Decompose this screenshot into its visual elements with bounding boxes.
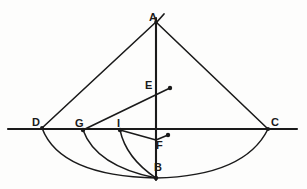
point-label-c: C xyxy=(271,117,279,128)
dot-point-b xyxy=(154,176,158,180)
point-label-g: G xyxy=(75,118,84,129)
point-label-f: F xyxy=(156,140,163,151)
dot-point-d xyxy=(40,126,44,130)
arc-i-b xyxy=(120,130,156,178)
side-ad-line xyxy=(42,22,156,128)
dot-point-f xyxy=(166,133,170,137)
point-label-b: B xyxy=(154,162,162,173)
point-label-d: D xyxy=(32,117,40,128)
dot-point-c xyxy=(266,127,270,131)
point-label-a: A xyxy=(149,12,157,23)
point-label-e: E xyxy=(145,80,153,91)
dot-point-e xyxy=(168,86,172,90)
point-label-i: I xyxy=(117,118,120,129)
diagram-canvas: A D C G I E F B xyxy=(0,0,307,189)
side-ac-line xyxy=(156,22,268,129)
